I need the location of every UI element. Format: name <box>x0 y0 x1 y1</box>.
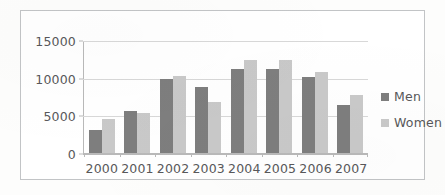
chart-figure-border: 050001000015000 200020012002200320042005… <box>20 10 425 180</box>
bar-group-2003 <box>191 41 227 153</box>
bar-women-2005 <box>279 60 292 153</box>
y-tick-label-0: 0 <box>68 147 76 162</box>
bar-women-2004 <box>244 60 257 153</box>
x-tick-mark-2000 <box>84 153 85 157</box>
bar-women-2007 <box>350 95 363 153</box>
y-tick-label-15000: 15000 <box>35 34 76 49</box>
x-axis-label-2004: 2004 <box>227 161 263 176</box>
bar-men-2003 <box>195 87 208 153</box>
x-axis-label-2003: 2003 <box>191 161 227 176</box>
legend-label-men: Men <box>394 89 421 104</box>
bar-group-2001 <box>120 41 156 153</box>
x-axis-label-2005: 2005 <box>262 161 298 176</box>
x-axis-labels: 20002001200220032004200520062007 <box>84 161 369 176</box>
bar-group-2005 <box>262 41 298 153</box>
x-tick-mark-2005 <box>262 153 263 157</box>
legend-swatch-icon-men <box>381 93 389 101</box>
legend-swatch-icon-women <box>381 119 389 127</box>
bar-women-2003 <box>208 102 221 153</box>
plot-area: 050001000015000 <box>83 41 368 154</box>
bar-women-2006 <box>315 72 328 153</box>
x-tick-mark-2002 <box>155 153 156 157</box>
bar-group-2000 <box>84 41 120 153</box>
bar-group-2006 <box>297 41 333 153</box>
bar-group-2002 <box>155 41 191 153</box>
y-tick-mark-15000 <box>79 41 83 42</box>
x-axis-label-2007: 2007 <box>333 161 369 176</box>
x-tick-mark-2007 <box>333 153 334 157</box>
bar-men-2004 <box>231 69 244 153</box>
x-tick-mark-end <box>367 153 368 157</box>
y-tick-mark-5000 <box>79 116 83 117</box>
x-tick-mark-2006 <box>297 153 298 157</box>
bar-men-2002 <box>160 79 173 153</box>
bar-men-2007 <box>337 105 350 153</box>
legend-item-men[interactable]: Men <box>381 89 442 104</box>
x-axis-label-2002: 2002 <box>155 161 191 176</box>
chart-screenshot: 050001000015000 200020012002200320042005… <box>0 0 445 195</box>
legend-label-women: Women <box>394 115 442 130</box>
bar-group-2007 <box>333 41 369 153</box>
chart-legend: MenWomen <box>381 89 442 130</box>
bar-men-2001 <box>124 111 137 153</box>
bar-men-2005 <box>266 69 279 153</box>
x-axis-label-2001: 2001 <box>120 161 156 176</box>
y-tick-mark-0 <box>79 154 83 155</box>
bar-group-2004 <box>226 41 262 153</box>
legend-item-women[interactable]: Women <box>381 115 442 130</box>
y-tick-mark-10000 <box>79 78 83 79</box>
x-tick-mark-2001 <box>120 153 121 157</box>
y-tick-label-5000: 5000 <box>43 109 76 124</box>
bar-women-2001 <box>137 113 150 153</box>
bar-groups <box>84 41 368 153</box>
x-axis-label-2000: 2000 <box>84 161 120 176</box>
bar-women-2000 <box>102 119 115 153</box>
x-tick-mark-2004 <box>226 153 227 157</box>
x-tick-mark-2003 <box>191 153 192 157</box>
bar-men-2006 <box>302 77 315 153</box>
bar-men-2000 <box>89 130 102 153</box>
y-tick-label-10000: 10000 <box>35 71 76 86</box>
x-axis-label-2006: 2006 <box>298 161 334 176</box>
bar-women-2002 <box>173 76 186 153</box>
